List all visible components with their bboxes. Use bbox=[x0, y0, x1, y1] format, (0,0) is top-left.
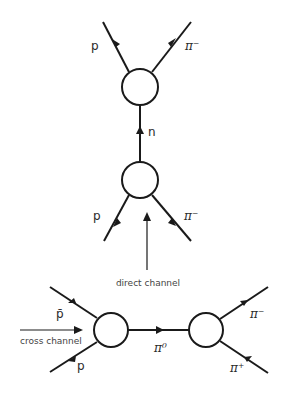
label-outgoing-p: p bbox=[91, 39, 99, 53]
top-vertex-circle bbox=[122, 69, 158, 105]
right-vertex-circle bbox=[189, 313, 223, 347]
left-vertex-circle bbox=[94, 313, 128, 347]
arrow-up-icon bbox=[143, 212, 151, 221]
bottom-vertex-circle bbox=[122, 162, 158, 198]
label-incoming-p: p bbox=[93, 209, 101, 223]
label-pi-zero: π⁰ bbox=[153, 341, 167, 355]
label-antiproton: p̄ bbox=[56, 307, 64, 321]
label-proton: p bbox=[77, 359, 85, 373]
arrow-head-icon bbox=[136, 126, 144, 134]
label-outgoing-pi-minus: π⁻ bbox=[184, 39, 199, 53]
label-pi-plus: π⁺ bbox=[229, 361, 244, 375]
label-intermediate-n: n bbox=[148, 125, 156, 139]
incoming-proton-line bbox=[104, 195, 129, 241]
arrow-right-icon bbox=[74, 326, 83, 334]
direct-channel-caption: direct channel bbox=[116, 278, 180, 288]
incoming-proton-line bbox=[50, 342, 97, 372]
feynman-diagram: p π⁻ n p π⁻ direct channel p̄ p π⁰ π⁻ π⁺ bbox=[0, 0, 284, 393]
label-incoming-pi-minus: π⁻ bbox=[183, 209, 198, 223]
label-pi-minus: π⁻ bbox=[249, 307, 264, 321]
direct-channel-diagram: p π⁻ n p π⁻ direct channel bbox=[91, 22, 199, 288]
arrow-head-icon bbox=[156, 326, 164, 334]
cross-channel-caption: cross channel bbox=[20, 336, 82, 346]
cross-channel-diagram: p̄ p π⁰ π⁻ π⁺ cross channel bbox=[20, 287, 268, 375]
